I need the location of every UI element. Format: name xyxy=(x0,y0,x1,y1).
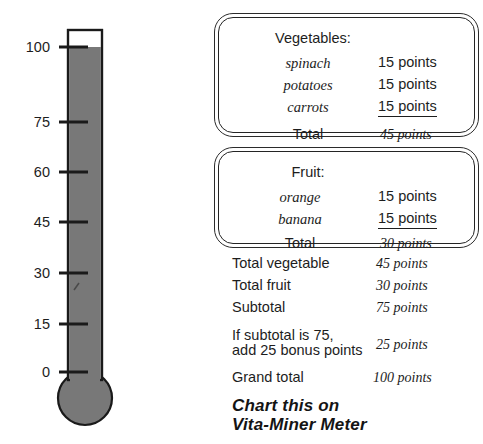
summary-label-grand-total: Grand total xyxy=(232,370,304,385)
fruit-item-name-banana: banana xyxy=(245,212,355,227)
summary-label-total-vegetable: Total vegetable xyxy=(232,256,330,271)
vegetables-item-name-spinach: spinach xyxy=(253,56,363,71)
summary-label-subtotal: Subtotal xyxy=(232,300,285,315)
fruit-item-points-banana: 15 points xyxy=(378,211,437,229)
summary-label-bonus-rule: If subtotal is 75, add 25 bonus points xyxy=(232,328,363,358)
vegetables-total-label: Total xyxy=(253,127,363,142)
fruit-item-points-orange: 15 points xyxy=(378,189,437,204)
summary-value-total-vegetable: 45 points xyxy=(376,257,428,271)
vegetables-item-name-potatoes: potatoes xyxy=(253,78,363,93)
vegetables-item-points-potatoes: 15 points xyxy=(378,77,437,92)
summary-value-subtotal: 75 points xyxy=(376,301,428,315)
summary-value-total-fruit: 30 points xyxy=(376,279,428,293)
fruit-box-content: Fruit: orange 15 points banana 15 points… xyxy=(218,151,475,244)
chart-instruction-note: Chart this on Vita-Miner Meter xyxy=(232,396,367,434)
tick-label-15: 15 xyxy=(6,317,50,332)
thermometer-fill xyxy=(69,47,101,380)
fruit-item-name-orange: orange xyxy=(245,190,355,205)
tick-label-75: 75 xyxy=(6,115,50,130)
vegetables-title: Vegetables: xyxy=(258,31,368,46)
points-panel: Vegetables: spinach 15 points potatoes 1… xyxy=(214,0,483,444)
vegetables-total-points: 45 points xyxy=(380,128,432,142)
fruit-title: Fruit: xyxy=(253,165,363,180)
vegetables-box: Vegetables: spinach 15 points potatoes 1… xyxy=(214,13,479,137)
vita-miner-meter-thermometer: 100 75 60 45 30 15 0 xyxy=(0,0,215,444)
vegetables-item-name-carrots: carrots xyxy=(253,100,363,115)
tick-label-100: 100 xyxy=(6,40,50,55)
summary-value-bonus: 25 points xyxy=(376,338,428,352)
worksheet-canvas: 100 75 60 45 30 15 0 Vegetables: spinach… xyxy=(0,0,483,444)
fruit-total-label: Total xyxy=(245,236,355,251)
tick-label-0: 0 xyxy=(6,365,50,380)
vegetables-box-content: Vegetables: spinach 15 points potatoes 1… xyxy=(218,17,475,133)
fruit-box: Fruit: orange 15 points banana 15 points… xyxy=(214,147,479,248)
fruit-total-points: 30 points xyxy=(380,237,432,251)
tick-label-45: 45 xyxy=(6,215,50,230)
tick-label-60: 60 xyxy=(6,165,50,180)
vegetables-item-points-carrots: 15 points xyxy=(378,99,437,117)
summary-label-total-fruit: Total fruit xyxy=(232,278,291,293)
summary-value-grand-total: 100 points xyxy=(373,371,432,385)
thermometer-neck xyxy=(70,368,100,382)
vegetables-item-points-spinach: 15 points xyxy=(378,55,437,70)
tick-label-30: 30 xyxy=(6,266,50,281)
